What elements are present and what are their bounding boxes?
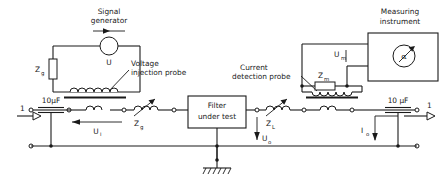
generator-side-impedance-label: Z: [134, 119, 139, 128]
source-impedance-resistor: [49, 59, 57, 79]
detection-probe-secondary-coil: [312, 92, 352, 96]
output-voltage-arrow: [254, 117, 260, 140]
signal-generator-label-line1: Signal: [98, 7, 121, 16]
right-terminal-label: 1: [427, 101, 432, 110]
right-output-arrow: [427, 112, 435, 120]
node-right-of-secondary: [122, 108, 126, 112]
measuring-instrument-group: Measuring instrument α: [368, 7, 438, 81]
filter-under-test-group: Filter under test: [176, 96, 246, 162]
signal-generator-label-line2: generator: [91, 16, 128, 25]
left-terminal-label: 1: [20, 104, 25, 113]
output-voltage-label-sub: o: [268, 139, 271, 145]
load-impedance-label: Z: [266, 119, 271, 128]
generator-direction-arrow: [93, 28, 125, 34]
detection-probe-line-coil: [320, 106, 336, 110]
voltage-injection-probe-group: Voltage injection probe: [64, 59, 187, 110]
voltage-injection-probe-label-line1: Voltage: [131, 59, 159, 68]
measuring-impedance-resistor: [315, 82, 335, 90]
current-detection-probe-label-line2: detection probe: [232, 72, 291, 81]
generator-side-impedance-group: Z g: [126, 99, 172, 131]
output-current-label: I: [361, 126, 363, 135]
node-right-of-detection-coil: [350, 108, 354, 112]
source-impedance-label: Z: [35, 65, 40, 74]
measuring-instrument-label-line2: instrument: [380, 17, 421, 26]
right-output-group: 10 µF 1 I o: [361, 96, 435, 148]
injected-voltage-arrow: [72, 119, 122, 125]
measuring-impedance-label-sub: m: [324, 76, 329, 82]
measuring-impedance-label: Z: [318, 71, 323, 80]
ac-source-symbol: [100, 37, 118, 55]
node-filter-output: [255, 108, 259, 112]
load-impedance-label-sub: L: [272, 124, 275, 130]
filter-label-line2: under test: [198, 112, 236, 121]
earth-ground-symbol: [203, 160, 231, 174]
current-detection-probe-label-line1: Current: [240, 63, 268, 72]
left-capacitor-label: 10µF: [42, 96, 60, 105]
filter-label-line1: Filter: [208, 101, 227, 110]
main-line-left: 1 10µF U i Z g: [17, 96, 176, 148]
signal-generator-group: Signal generator U Z g: [35, 7, 140, 92]
left-terminal-node-top: [29, 108, 33, 112]
generator-side-impedance-label-sub: g: [140, 124, 143, 131]
right-capacitor-label: 10 µF: [388, 96, 409, 105]
main-line-right: U o Z L: [246, 99, 383, 145]
output-current-label-sub: o: [366, 131, 369, 137]
node-filter-input: [172, 108, 176, 112]
node-left-of-detection-coil: [302, 108, 306, 112]
source-voltage-label: U: [106, 58, 111, 67]
current-detection-probe-group: Current detection probe Z m U m: [232, 44, 368, 98]
measuring-instrument-label-line1: Measuring: [381, 7, 420, 16]
measured-voltage-label: U: [334, 50, 339, 59]
injected-voltage-label-sub: i: [100, 131, 102, 137]
left-input-arrow: [33, 112, 41, 120]
load-impedance-group: Z L: [259, 99, 302, 130]
injection-probe-secondary-coil: [86, 106, 102, 110]
measured-voltage-label-sub: m: [341, 55, 346, 61]
rail-ground-node: [215, 144, 219, 148]
source-impedance-label-sub: g: [41, 70, 44, 77]
voltage-injection-probe-label-line2: injection probe: [131, 68, 187, 77]
output-voltage-label: U: [262, 134, 267, 143]
circuit-diagram: Signal generator U Z g Voltage injection…: [0, 0, 445, 187]
output-current-arrow: [372, 116, 398, 141]
injected-voltage-label: U: [93, 127, 98, 136]
right-terminal-node-top: [415, 108, 419, 112]
